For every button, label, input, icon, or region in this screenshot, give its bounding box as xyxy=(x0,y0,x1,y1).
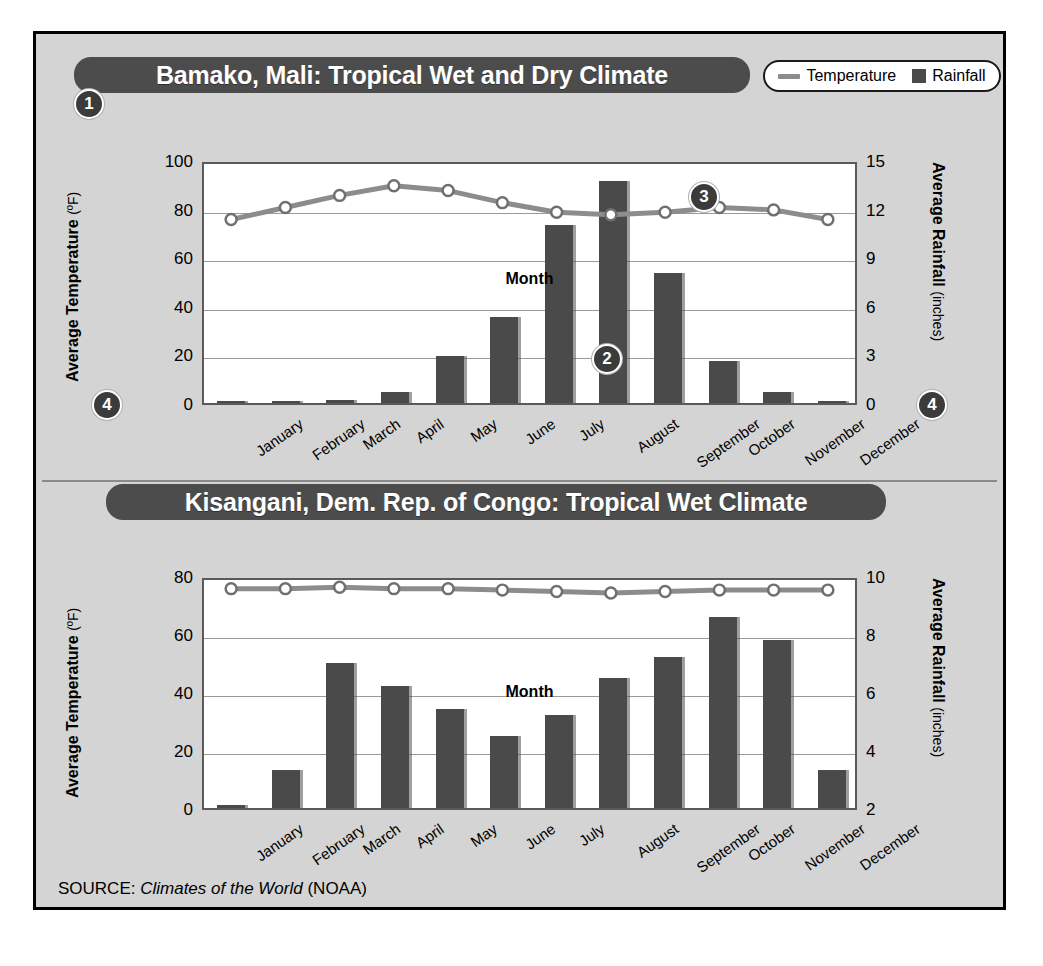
temperature-data-point xyxy=(443,185,454,196)
y-axis-tick-left: 20 xyxy=(174,742,202,762)
y-axis-tick-right: 0 xyxy=(857,395,875,415)
temperature-data-point xyxy=(334,582,345,593)
y-axis-tick-right: 4 xyxy=(857,742,875,762)
y-axis-tick-right: 3 xyxy=(857,346,875,366)
chart-2-plot-area: 020406080 246810 JanuaryFebruaryMarchApr… xyxy=(202,578,857,810)
month-label: August xyxy=(634,820,682,861)
month-label: June xyxy=(522,415,558,448)
y-axis-tick-left: 0 xyxy=(184,800,202,820)
temperature-data-point xyxy=(226,583,237,594)
legend-entry-temperature: Temperature xyxy=(778,67,896,85)
month-label: December xyxy=(856,415,922,469)
legend-label-temperature: Temperature xyxy=(806,67,896,85)
temperature-polyline xyxy=(231,186,828,220)
callout-marker-4-right: 4 xyxy=(917,390,947,420)
temperature-data-point xyxy=(768,204,779,215)
month-label: January xyxy=(253,820,306,865)
y-axis-tick-right: 6 xyxy=(857,298,875,318)
y-axis-tick-right: 8 xyxy=(857,626,875,646)
temperature-data-point xyxy=(822,585,833,596)
month-label: March xyxy=(360,820,404,858)
y-axis-tick-left: 40 xyxy=(174,298,202,318)
temperature-data-point xyxy=(280,202,291,213)
month-label: November xyxy=(802,415,868,469)
temperature-data-point xyxy=(497,197,508,208)
y-axis-tick-left: 60 xyxy=(174,249,202,269)
month-label: November xyxy=(802,820,868,874)
callout-marker-2: 2 xyxy=(592,344,622,374)
legend-entry-rainfall: Rainfall xyxy=(912,67,985,85)
chart-2-y-left-axis-title: Average Temperature (ºF) xyxy=(64,608,82,798)
temperature-data-point xyxy=(388,583,399,594)
temperature-data-point xyxy=(388,180,399,191)
temperature-data-point xyxy=(605,209,616,220)
chart-2-y-right-axis-title: Average Rainfall (inches) xyxy=(929,578,947,757)
callout-marker-1: 1 xyxy=(74,89,104,119)
temperature-data-point xyxy=(605,588,616,599)
temperature-line-swatch-icon xyxy=(778,74,800,79)
month-label: July xyxy=(576,415,608,444)
chart-1-plot-area: 020406080100 03691215 JanuaryFebruaryMar… xyxy=(202,162,857,405)
chart-1-x-axis-title: Month xyxy=(202,270,857,288)
month-label: January xyxy=(253,415,306,460)
temperature-polyline xyxy=(231,587,828,593)
month-label: May xyxy=(467,415,500,445)
chart-1-title-banner: Bamako, Mali: Tropical Wet and Dry Clima… xyxy=(74,57,750,93)
y-axis-tick-left: 60 xyxy=(174,626,202,646)
temperature-data-point xyxy=(280,583,291,594)
temperature-data-point xyxy=(768,585,779,596)
y-axis-tick-right: 12 xyxy=(857,201,885,221)
month-label: April xyxy=(412,415,446,446)
temperature-data-point xyxy=(822,214,833,225)
source-note: SOURCE: Climates of the World (NOAA) xyxy=(58,879,367,899)
y-axis-tick-left: 0 xyxy=(184,395,202,415)
y-axis-tick-right: 2 xyxy=(857,800,875,820)
temperature-data-point xyxy=(226,214,237,225)
temperature-data-point xyxy=(551,207,562,218)
callout-marker-3: 3 xyxy=(689,182,719,212)
chart-2-title: Kisangani, Dem. Rep. of Congo: Tropical … xyxy=(185,488,808,517)
month-label: December xyxy=(856,820,922,874)
chart-2-panel: Average Temperature (ºF) Average Rainfal… xyxy=(42,526,997,871)
y-axis-tick-left: 100 xyxy=(165,152,202,172)
y-axis-tick-right: 15 xyxy=(857,152,885,172)
y-axis-tick-right: 10 xyxy=(857,568,885,588)
temperature-data-point xyxy=(443,583,454,594)
temperature-data-point xyxy=(497,585,508,596)
climate-graphs-figure: Bamako, Mali: Tropical Wet and Dry Clima… xyxy=(33,31,1006,910)
chart-2-title-banner: Kisangani, Dem. Rep. of Congo: Tropical … xyxy=(106,484,886,520)
legend-label-rainfall: Rainfall xyxy=(932,67,985,85)
chart-1-panel: Average Temperature (ºF) Average Rainfal… xyxy=(42,100,997,480)
y-axis-tick-left: 80 xyxy=(174,201,202,221)
temperature-data-point xyxy=(660,586,671,597)
temperature-data-point xyxy=(334,190,345,201)
month-label: July xyxy=(576,820,608,849)
temperature-data-point xyxy=(660,207,671,218)
chart-2-x-axis-title: Month xyxy=(202,683,857,701)
y-axis-tick-left: 40 xyxy=(174,684,202,704)
rainfall-bar-swatch-icon xyxy=(912,69,926,83)
month-label: June xyxy=(522,820,558,853)
chart-legend: Temperature Rainfall xyxy=(763,60,1001,92)
y-axis-tick-right: 9 xyxy=(857,249,875,269)
month-label: August xyxy=(634,415,682,456)
chart-1-y-left-axis-title: Average Temperature (ºF) xyxy=(64,192,82,382)
callout-marker-4-left: 4 xyxy=(92,390,122,420)
chart-1-y-right-axis-title: Average Rainfall (inches) xyxy=(929,162,947,341)
y-axis-tick-left: 80 xyxy=(174,568,202,588)
chart-1-title: Bamako, Mali: Tropical Wet and Dry Clima… xyxy=(156,61,668,90)
y-axis-tick-right: 6 xyxy=(857,684,875,704)
month-label: May xyxy=(467,820,500,850)
temperature-data-point xyxy=(551,586,562,597)
month-label: March xyxy=(360,415,404,453)
month-label: April xyxy=(412,820,446,851)
temperature-data-point xyxy=(714,585,725,596)
panel-divider xyxy=(42,480,997,482)
y-axis-tick-left: 20 xyxy=(174,346,202,366)
